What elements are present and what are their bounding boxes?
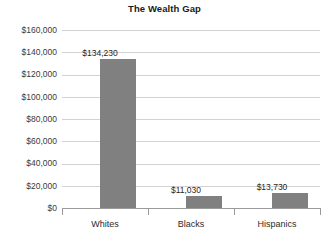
bar-hispanics[interactable]: [272, 193, 308, 208]
y-axis-tick-label-20000: $20,000: [0, 181, 57, 191]
x-axis-tick-1: [148, 208, 149, 215]
y-axis-tick-label-100000: $100,000: [0, 92, 57, 102]
gridline-160000: [62, 30, 320, 31]
x-axis-category-label-hispanics: Hispanics: [234, 219, 320, 229]
chart-screenshot: The Wealth Gap $160,000 $140,000 $120,00…: [0, 0, 329, 241]
y-axis-tick-label-0: $0: [0, 203, 57, 213]
y-axis-tick-label-120000: $120,000: [0, 69, 57, 79]
x-axis-tick-2: [234, 208, 235, 215]
x-axis-baseline: [62, 208, 320, 209]
x-axis-tick-0: [62, 208, 63, 215]
bar-value-label-hispanics: $13,730: [242, 182, 302, 192]
y-axis-tick-label-140000: $140,000: [0, 47, 57, 57]
y-axis-tick-label-160000: $160,000: [0, 25, 57, 35]
y-axis-tick-label-80000: $80,000: [0, 114, 57, 124]
x-axis-category-label-whites: Whites: [62, 219, 148, 229]
x-axis-category-label-blacks: Blacks: [148, 219, 234, 229]
bar-whites[interactable]: [100, 59, 136, 208]
bar-blacks[interactable]: [186, 196, 222, 208]
y-axis-tick-label-60000: $60,000: [0, 136, 57, 146]
x-axis-tick-3: [320, 208, 321, 215]
chart-title: The Wealth Gap: [0, 3, 329, 14]
y-axis-tick-label-40000: $40,000: [0, 158, 57, 168]
bar-value-label-blacks: $11,030: [156, 185, 216, 195]
bar-value-label-whites: $134,230: [70, 48, 130, 58]
